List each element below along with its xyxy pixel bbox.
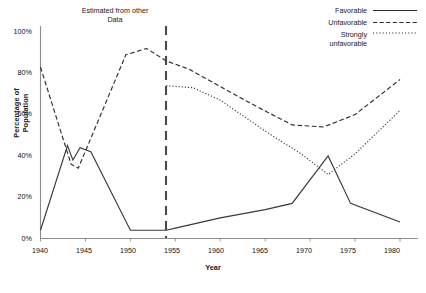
legend-item-favorable: Favorable (276, 6, 418, 17)
legend-label-strongly-unfavorable: Strongly unfavorable (329, 30, 372, 49)
y-tick-label-100: 100% (2, 28, 32, 35)
legend-swatch-solid (372, 6, 418, 15)
annotation-line-1: Estimated from other (62, 6, 168, 15)
x-tick-label-1955: 1955 (152, 247, 192, 254)
y-tick-label-20: 20% (2, 193, 32, 200)
x-tick-label-1945: 1945 (64, 247, 104, 254)
x-tick-label-1965: 1965 (240, 247, 280, 254)
estimated-from-other-data-note: Estimated from other Data (62, 6, 168, 24)
x-tick-label-1940: 1940 (20, 247, 60, 254)
legend-label-strongly-line2: unfavorable (329, 39, 367, 48)
series-line-unfavorable (41, 49, 401, 169)
x-axis-title: Year (0, 263, 426, 272)
x-tick-label-1975: 1975 (328, 247, 368, 254)
series-line-strongly-unfavorable (166, 86, 400, 175)
series-layer (41, 49, 401, 231)
legend-item-unfavorable: Unfavorable (276, 18, 418, 29)
chart-figure: 100% 80% 60% 40% 20% 0% 1940 1945 1950 1… (0, 0, 426, 293)
x-tick-label-1950: 1950 (108, 247, 148, 254)
legend-label-unfavorable: Unfavorable (328, 18, 372, 27)
annotation-line-2: Data (62, 15, 168, 24)
x-tick-label-1960: 1960 (196, 247, 236, 254)
figure-caption (32, 284, 232, 293)
y-axis-title: Percentage of Population (12, 68, 30, 158)
series-line-favorable (41, 146, 401, 231)
legend-swatch-dotted (372, 30, 418, 39)
chart-legend: Favorable Unfavorable Strongly unfavorab (276, 6, 418, 51)
axes (40, 26, 418, 239)
legend-label-favorable: Favorable (335, 6, 372, 15)
legend-item-strongly-unfavorable: Strongly unfavorable (276, 30, 418, 50)
x-tick-label-1980: 1980 (372, 247, 412, 254)
x-tick-label-1970: 1970 (284, 247, 324, 254)
legend-swatch-dashed (372, 18, 418, 27)
y-tick-label-0: 0% (2, 235, 32, 242)
legend-label-strongly-line1: Strongly (329, 30, 367, 39)
